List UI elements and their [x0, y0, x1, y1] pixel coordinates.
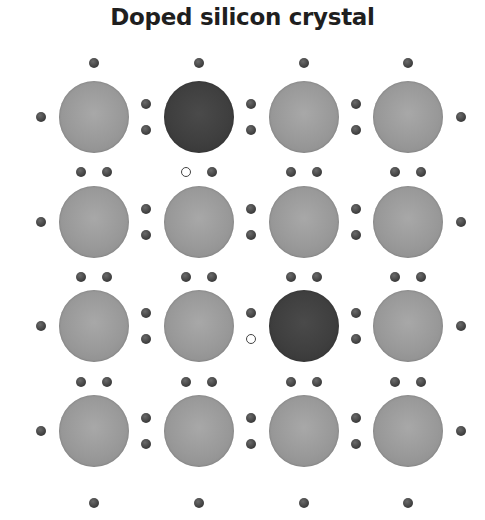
electron-icon [351, 204, 361, 214]
electron-icon [403, 498, 413, 508]
electron-icon [207, 167, 217, 177]
electron-icon [246, 413, 256, 423]
electron-icon [286, 377, 296, 387]
electron-icon [299, 498, 309, 508]
electron-icon [207, 272, 217, 282]
electron-icon [403, 58, 413, 68]
electron-icon [181, 377, 191, 387]
electron-icon [246, 230, 256, 240]
electron-icon [141, 99, 151, 109]
electron-icon [181, 272, 191, 282]
electron-icon [102, 272, 112, 282]
electron-icon [351, 99, 361, 109]
silicon-atom-icon [269, 395, 339, 467]
silicon-atom-icon [269, 186, 339, 258]
electron-icon [36, 217, 46, 227]
electron-icon [390, 377, 400, 387]
electron-icon [246, 99, 256, 109]
silicon-atom-icon [164, 395, 234, 467]
silicon-atom-icon [164, 290, 234, 362]
electron-icon [351, 413, 361, 423]
electron-icon [351, 439, 361, 449]
electron-icon [89, 498, 99, 508]
electron-icon [141, 413, 151, 423]
electron-icon [76, 167, 86, 177]
electron-icon [246, 125, 256, 135]
electron-icon [76, 377, 86, 387]
electron-icon [89, 58, 99, 68]
silicon-atom-icon [373, 81, 443, 153]
silicon-atom-icon [373, 290, 443, 362]
electron-icon [207, 377, 217, 387]
silicon-atom-icon [59, 290, 129, 362]
electron-icon [141, 439, 151, 449]
electron-icon [416, 377, 426, 387]
electron-icon [246, 308, 256, 318]
electron-icon [194, 498, 204, 508]
electron-icon [390, 272, 400, 282]
electron-icon [456, 112, 466, 122]
electron-icon [390, 167, 400, 177]
electron-icon [246, 439, 256, 449]
silicon-atom-icon [373, 186, 443, 258]
electron-icon [194, 58, 204, 68]
electron-icon [76, 272, 86, 282]
hole-icon [246, 334, 256, 344]
electron-icon [141, 204, 151, 214]
hole-icon [181, 167, 191, 177]
electron-icon [456, 321, 466, 331]
silicon-atom-icon [373, 395, 443, 467]
electron-icon [102, 377, 112, 387]
electron-icon [141, 334, 151, 344]
silicon-atom-icon [59, 395, 129, 467]
crystal-lattice [0, 0, 485, 520]
electron-icon [36, 112, 46, 122]
electron-icon [312, 272, 322, 282]
electron-icon [456, 217, 466, 227]
silicon-atom-icon [164, 186, 234, 258]
electron-icon [36, 426, 46, 436]
electron-icon [286, 167, 296, 177]
silicon-atom-icon [59, 81, 129, 153]
electron-icon [141, 125, 151, 135]
electron-icon [36, 321, 46, 331]
electron-icon [456, 426, 466, 436]
dopant-atom-icon [164, 81, 234, 153]
silicon-atom-icon [269, 81, 339, 153]
electron-icon [416, 272, 426, 282]
electron-icon [351, 334, 361, 344]
electron-icon [141, 230, 151, 240]
electron-icon [286, 272, 296, 282]
electron-icon [246, 204, 256, 214]
electron-icon [416, 167, 426, 177]
electron-icon [351, 230, 361, 240]
dopant-atom-icon [269, 290, 339, 362]
electron-icon [102, 167, 112, 177]
electron-icon [312, 167, 322, 177]
electron-icon [351, 125, 361, 135]
electron-icon [351, 308, 361, 318]
electron-icon [312, 377, 322, 387]
electron-icon [299, 58, 309, 68]
electron-icon [141, 308, 151, 318]
silicon-atom-icon [59, 186, 129, 258]
